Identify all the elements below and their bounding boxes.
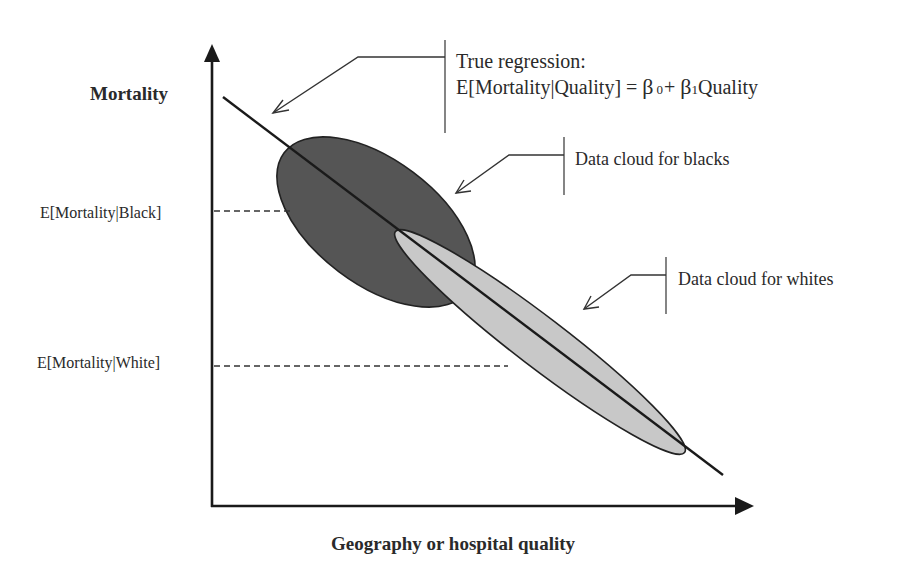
regression-callout: True regression: E[Mortality|Quality] = … xyxy=(273,40,758,133)
regression-diagram: Mortality Geography or hospital quality … xyxy=(0,0,919,568)
x-axis-arrow-icon xyxy=(735,497,754,515)
y-axis-label: Mortality xyxy=(90,83,169,104)
black-cloud-label: Data cloud for blacks xyxy=(575,149,729,169)
white-expectation-label: E[Mortality|White] xyxy=(37,354,160,372)
white-cloud-label: Data cloud for whites xyxy=(678,269,833,289)
regression-callout-title: True regression: xyxy=(456,50,586,73)
y-axis-arrow-icon xyxy=(204,44,220,62)
x-axis xyxy=(211,497,754,515)
regression-equation: E[Mortality|Quality] = β0+ β1Quality xyxy=(456,74,758,99)
y-axis xyxy=(204,44,220,507)
black-cloud-callout: Data cloud for blacks xyxy=(456,137,729,195)
white-cloud-callout: Data cloud for whites xyxy=(584,257,833,314)
x-axis-label: Geography or hospital quality xyxy=(331,533,576,554)
black-expectation-label: E[Mortality|Black] xyxy=(40,204,161,222)
